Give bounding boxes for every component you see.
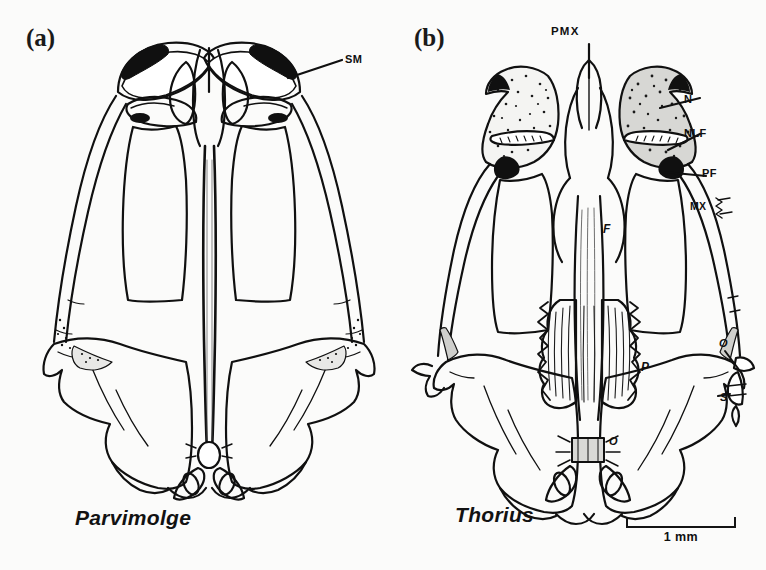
anatomical-figure: (a) (b) Parvimolge Thorius SM PMX N NLF … (0, 0, 766, 570)
annotation-mx: MX (690, 200, 706, 212)
skull-drawing-thorius (0, 0, 766, 570)
annotation-sm: SM (345, 53, 363, 65)
annotation-pf: PF (702, 167, 717, 179)
annotation-pmx: PMX (551, 25, 580, 37)
scale-bar-label: 1 mm (626, 530, 736, 544)
annotation-n: N (684, 93, 692, 105)
species-name-thorius: Thorius (455, 503, 534, 527)
scale-bar: 1 mm (626, 517, 736, 544)
annotation-o-operculum: O (719, 337, 728, 349)
scale-bar-line (626, 517, 736, 528)
annotation-o-occipital: O (609, 435, 618, 447)
annotation-nlf: NLF (684, 127, 707, 139)
panel-b-label: (b) (414, 24, 445, 52)
annotation-s: S (720, 391, 727, 403)
annotation-f: F (603, 222, 610, 236)
annotation-p: P (641, 360, 649, 374)
panel-a-label: (a) (26, 24, 55, 52)
species-name-parvimolge: Parvimolge (75, 506, 191, 530)
